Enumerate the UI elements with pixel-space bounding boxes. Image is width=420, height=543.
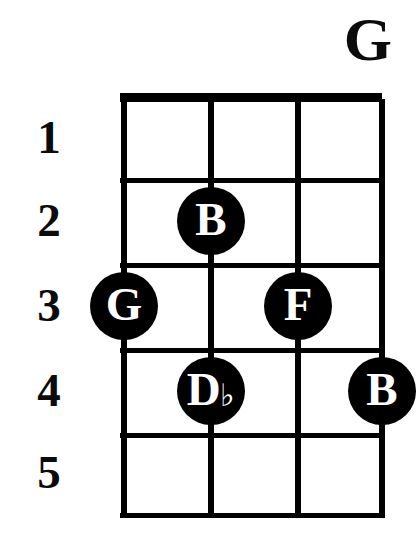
string-line-2	[208, 99, 214, 518]
finger-dot-label: D♭	[187, 366, 236, 413]
fret-number-column: 12345	[0, 0, 118, 543]
finger-dot-label: B	[195, 196, 226, 243]
fret-number-2: 2	[26, 197, 72, 244]
finger-dot-d-flat-s2f4[interactable]: D♭	[177, 357, 245, 425]
finger-dot-f-s3f3[interactable]: F	[264, 272, 332, 340]
finger-dot-g-s1f3[interactable]: G	[90, 272, 158, 340]
fret-line-2	[120, 263, 382, 268]
flat-symbol-icon: ♭	[220, 378, 235, 413]
finger-dot-label: G	[106, 281, 143, 328]
finger-dot-b-s4f4[interactable]: B	[348, 357, 416, 425]
fret-line-1	[120, 178, 382, 183]
fret-number-1: 1	[26, 114, 72, 161]
string-line-4	[379, 99, 385, 518]
chord-name-title: G	[344, 8, 392, 70]
fretboard-grid: BGFD♭B	[118, 90, 386, 518]
finger-dot-b-s2f2[interactable]: B	[177, 187, 245, 255]
fret-number-4: 4	[26, 367, 72, 414]
fret-number-3: 3	[26, 282, 72, 329]
nut-line	[120, 93, 382, 102]
chord-diagram: G 12345 BGFD♭B	[0, 0, 420, 543]
finger-dot-label: F	[284, 281, 313, 328]
fret-line-3	[120, 348, 382, 353]
fret-line-4	[120, 433, 382, 438]
finger-dot-label: B	[366, 366, 397, 413]
fret-line-5	[120, 513, 382, 518]
fret-number-5: 5	[26, 449, 72, 496]
